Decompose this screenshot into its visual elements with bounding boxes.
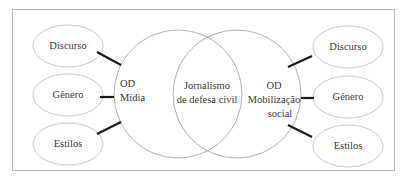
right-connector-estilos — [288, 125, 312, 137]
right-node-label-discurso: Discurso — [329, 40, 366, 54]
left-circle-subtitle: Mídia — [120, 91, 145, 105]
right-circle-title: OD — [266, 79, 281, 93]
left-node-label-genero: Gênero — [53, 88, 84, 102]
left-circle-title: OD — [120, 77, 135, 91]
right-node-label-genero: Gênero — [333, 90, 364, 104]
right-circle-subtitle: Mobilização — [248, 93, 300, 107]
left-connector-estilos — [97, 122, 121, 134]
intersection-line1: Jornalismo — [184, 79, 230, 93]
left-connector-discurso — [97, 52, 121, 65]
left-node-label-discurso: Discurso — [49, 39, 86, 53]
right-circle-subtitle2: social — [268, 107, 293, 121]
right-connector-discurso — [288, 56, 312, 67]
right-node-label-estilos: Estilos — [334, 139, 363, 153]
left-node-label-estilos: Estilos — [54, 137, 83, 151]
intersection-line2: de defesa civil — [177, 93, 238, 107]
